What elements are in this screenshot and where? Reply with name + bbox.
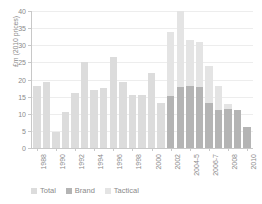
- bars-container: [32, 11, 253, 148]
- y-tick-label: 30: [18, 42, 26, 49]
- chart-legend: TotalBrandTactical: [31, 186, 139, 195]
- y-tick-mark: [28, 97, 31, 98]
- bar-segment-total: [100, 88, 107, 148]
- y-tick-label: 15: [18, 93, 26, 100]
- bar-segment-total: [148, 73, 155, 148]
- bar-column[interactable]: [243, 127, 250, 148]
- bar-column[interactable]: [100, 88, 107, 148]
- bar-column[interactable]: [71, 93, 78, 148]
- y-tick-mark: [28, 45, 31, 46]
- x-tick-mark: [171, 148, 172, 151]
- x-tick-label: 2008: [231, 154, 238, 170]
- y-tick-mark: [28, 62, 31, 63]
- bar-segment-total: [129, 95, 136, 148]
- bar-column[interactable]: [205, 66, 212, 148]
- bar-column[interactable]: [186, 40, 193, 148]
- bar-segment-total: [138, 95, 145, 148]
- bar-column[interactable]: [138, 95, 145, 148]
- x-tick-mark: [152, 148, 153, 151]
- bar-segment-tactical: [205, 66, 212, 104]
- x-tick-label: 1992: [78, 154, 85, 170]
- x-tick-mark: [113, 148, 114, 151]
- x-tick-mark: [190, 148, 191, 151]
- x-tick-label: 2010: [250, 154, 257, 170]
- bar-segment-total: [110, 57, 117, 148]
- x-tick-label: 2000: [155, 154, 162, 170]
- bar-column[interactable]: [196, 42, 203, 148]
- y-tick-mark: [28, 11, 31, 12]
- bar-segment-brand: [215, 110, 222, 148]
- bar-column[interactable]: [110, 57, 117, 148]
- y-tick-label: 40: [18, 8, 26, 15]
- bar-segment-total: [33, 86, 40, 148]
- y-tick-label: 25: [18, 59, 26, 66]
- bar-segment-tactical: [167, 32, 174, 96]
- bar-segment-brand: [234, 110, 241, 148]
- legend-label: Tactical: [114, 186, 139, 195]
- legend-swatch-icon: [66, 188, 72, 194]
- y-tick-mark: [28, 114, 31, 115]
- bar-column[interactable]: [177, 11, 184, 148]
- y-tick-mark: [28, 148, 31, 149]
- y-tick-mark: [28, 131, 31, 132]
- bar-column[interactable]: [52, 132, 59, 148]
- bar-column[interactable]: [33, 86, 40, 148]
- bar-column[interactable]: [81, 62, 88, 148]
- x-tick-label: 1998: [135, 154, 142, 170]
- bar-segment-total: [119, 82, 126, 148]
- bar-column[interactable]: [157, 103, 164, 148]
- bar-column[interactable]: [62, 112, 69, 148]
- bar-column[interactable]: [167, 32, 174, 148]
- bar-segment-tactical: [177, 11, 184, 87]
- bar-segment-brand: [177, 87, 184, 148]
- y-tick-mark: [28, 80, 31, 81]
- bar-segment-brand: [196, 87, 203, 148]
- x-tick-mark: [75, 148, 76, 151]
- legend-item-total[interactable]: Total: [31, 186, 56, 195]
- bar-segment-total: [62, 112, 69, 148]
- legend-item-tactical[interactable]: Tactical: [105, 186, 139, 195]
- bar-column[interactable]: [119, 82, 126, 148]
- bar-column[interactable]: [215, 86, 222, 148]
- legend-swatch-icon: [31, 188, 37, 194]
- bar-segment-total: [90, 90, 97, 148]
- x-tick-mark: [94, 148, 95, 151]
- bar-segment-tactical: [196, 42, 203, 87]
- x-axis-line: [31, 148, 253, 149]
- x-tick-label: 1994: [97, 154, 104, 170]
- y-tick-label: 10: [18, 110, 26, 117]
- x-tick-label: 1996: [116, 154, 123, 170]
- x-tick-label: 2004-5: [193, 154, 200, 176]
- legend-label: Total: [40, 186, 56, 195]
- bar-column[interactable]: [129, 95, 136, 148]
- bar-column[interactable]: [43, 82, 50, 148]
- y-tick-label: 5: [22, 127, 26, 134]
- x-tick-mark: [37, 148, 38, 151]
- bar-segment-brand: [243, 127, 250, 148]
- x-tick-mark: [247, 148, 248, 151]
- bar-segment-total: [71, 93, 78, 148]
- bar-segment-total: [52, 132, 59, 148]
- bar-column[interactable]: [90, 90, 97, 148]
- x-tick-label: 1990: [59, 154, 66, 170]
- bar-segment-total: [157, 103, 164, 148]
- bar-segment-brand: [186, 86, 193, 148]
- bar-segment-brand: [224, 109, 231, 148]
- x-tick-mark: [132, 148, 133, 151]
- y-tick-mark: [28, 28, 31, 29]
- x-tick-label: 2002: [174, 154, 181, 170]
- bar-segment-tactical: [215, 86, 222, 109]
- y-tick-label: 20: [18, 76, 26, 83]
- bar-chart: £m (2010 prices) 0510152025303540 198819…: [0, 0, 262, 204]
- plot-area: 0510152025303540 19881990199219941996199…: [31, 11, 253, 148]
- bar-column[interactable]: [234, 110, 241, 148]
- bar-column[interactable]: [148, 73, 155, 148]
- legend-label: Brand: [75, 186, 95, 195]
- x-tick-mark: [228, 148, 229, 151]
- bar-column[interactable]: [224, 104, 231, 149]
- bar-segment-brand: [205, 103, 212, 148]
- legend-item-brand[interactable]: Brand: [66, 186, 95, 195]
- x-tick-label: 1988: [40, 154, 47, 170]
- x-tick-label: 2006-7: [212, 154, 219, 176]
- bar-segment-total: [43, 82, 50, 148]
